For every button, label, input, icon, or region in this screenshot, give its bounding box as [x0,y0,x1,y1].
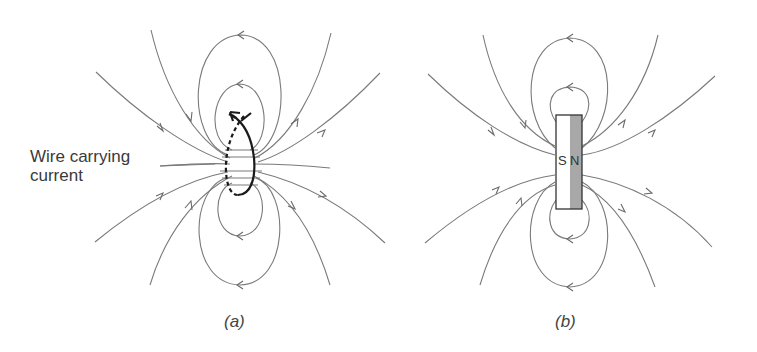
caption-a: (a) [224,312,245,332]
wire-label-line1: Wire carrying [30,147,130,166]
pole-north-label: N [570,153,579,168]
pole-south-label: S [558,153,567,168]
caption-b: (b) [555,312,576,332]
panel-a-field-lines [95,30,385,289]
wire-label-line2: current [30,166,130,185]
wire-loop [226,112,254,195]
wire-label: Wire carrying current [30,147,130,185]
